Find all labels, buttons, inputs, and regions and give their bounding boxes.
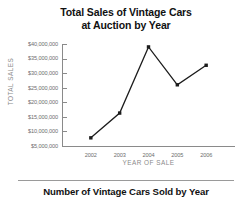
x-axis-tick-label: 2003	[114, 152, 126, 158]
y-axis-tick-label: $5,000,000	[31, 143, 58, 149]
y-axis-tick-mark	[63, 44, 67, 45]
series-line-group	[62, 44, 235, 147]
y-axis-tick-label: $10,000,000	[28, 128, 58, 134]
chart-title-line-2: at Auction by Year	[0, 19, 252, 32]
series-data-point	[118, 111, 121, 114]
y-axis-tick-mark	[63, 73, 67, 74]
series-line	[91, 47, 206, 138]
y-axis-tick-mark	[63, 117, 67, 118]
y-axis-title: TOTAL SALES	[7, 50, 14, 114]
series-data-point	[176, 83, 179, 86]
y-axis-tick-label: $35,000,000	[28, 55, 58, 61]
series-markers	[89, 45, 208, 139]
x-axis-tick-labels: 20022003200420052006	[62, 147, 235, 159]
y-axis-tick-label: $15,000,000	[28, 114, 58, 120]
footer-caption: Number of Vintage Cars Sold by Year	[0, 186, 252, 197]
x-axis-tick-label: 2002	[85, 152, 97, 158]
x-axis-tick-label: 2006	[200, 152, 212, 158]
series-data-point	[147, 45, 150, 48]
x-axis-title: YEAR OF SALE	[62, 159, 235, 166]
y-axis-tick-mark	[63, 59, 67, 60]
y-axis-tick-label: $20,000,000	[28, 99, 58, 105]
chart-title: Total Sales of Vintage Cars at Auction b…	[0, 6, 252, 31]
y-axis-tick-mark	[63, 88, 67, 89]
y-axis-tick-label: $30,000,000	[28, 70, 58, 76]
plot-area	[62, 44, 235, 146]
series-data-point	[204, 64, 207, 67]
chart-figure: Total Sales of Vintage Cars at Auction b…	[0, 0, 252, 201]
y-axis-tick-mark	[63, 131, 67, 132]
y-axis-tick-label: $25,000,000	[28, 85, 58, 91]
y-axis-tick-mark	[63, 102, 67, 103]
footer-divider	[18, 180, 234, 181]
series-data-point	[89, 136, 92, 139]
y-axis-tick-label: $40,000,000	[28, 41, 58, 47]
x-axis-tick-label: 2004	[142, 152, 154, 158]
chart-title-line-1: Total Sales of Vintage Cars	[0, 6, 252, 19]
x-axis-tick-label: 2005	[171, 152, 183, 158]
